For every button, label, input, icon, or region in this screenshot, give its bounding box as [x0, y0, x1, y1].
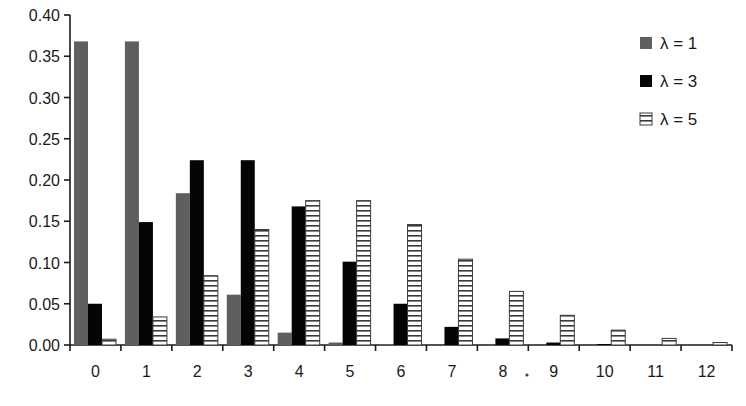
bar	[458, 259, 472, 345]
bar	[176, 193, 190, 345]
x-tick-label: 11	[647, 363, 664, 380]
x-tick-label: 6	[397, 363, 406, 380]
y-tick-label: 0.35	[29, 48, 60, 65]
x-tick-label: 12	[698, 363, 716, 380]
legend: λ = 1λ = 3λ = 5	[640, 34, 697, 129]
bar	[560, 315, 574, 345]
striped-square-swatch-icon	[640, 113, 652, 125]
bar	[329, 343, 343, 345]
legend-label: λ = 1	[660, 34, 697, 53]
bar	[88, 304, 102, 345]
bar	[125, 41, 139, 345]
x-tick-label: 1	[142, 363, 151, 380]
legend-label: λ = 3	[660, 72, 697, 91]
poisson-bar-chart: 0.000.050.100.150.200.250.300.350.40 012…	[0, 0, 746, 406]
x-tick-label: 2	[193, 363, 202, 380]
x-tick-label: 9	[549, 363, 558, 380]
x-tick-label: 4	[295, 363, 304, 380]
bar	[139, 222, 153, 345]
x-tick-label: 3	[244, 363, 253, 380]
x-tick-label: 5	[346, 363, 355, 380]
bar	[495, 338, 509, 345]
x-tick-label: 0	[91, 363, 100, 380]
y-tick-label: 0.25	[29, 131, 60, 148]
bar	[153, 317, 167, 345]
bar	[227, 295, 241, 345]
bar	[597, 344, 611, 345]
legend-label: λ = 5	[660, 110, 697, 129]
y-axis: 0.000.050.100.150.200.250.300.350.40	[29, 7, 70, 354]
bar	[278, 333, 292, 345]
x-tick-label: 10	[596, 363, 614, 380]
y-tick-label: 0.00	[29, 337, 60, 354]
bar	[292, 206, 306, 345]
bar	[255, 230, 269, 346]
bar	[306, 201, 320, 345]
bar	[546, 343, 560, 345]
x-tick-label: 8	[498, 363, 507, 380]
gray-square-swatch-icon	[640, 37, 652, 49]
stray-dot	[525, 373, 528, 376]
bar	[357, 201, 371, 345]
y-tick-label: 0.30	[29, 90, 60, 107]
x-axis: 0123456789101112	[70, 345, 732, 380]
bar	[241, 160, 255, 345]
bars	[74, 41, 727, 345]
y-tick-label: 0.20	[29, 172, 60, 189]
bar	[394, 304, 408, 345]
y-tick-label: 0.40	[29, 7, 60, 24]
bar	[190, 160, 204, 345]
y-tick-label: 0.15	[29, 213, 60, 230]
black-square-swatch-icon	[640, 75, 652, 87]
bar	[408, 225, 422, 345]
x-tick-label: 7	[447, 363, 456, 380]
bar	[662, 338, 676, 345]
bar	[102, 339, 116, 345]
y-tick-label: 0.05	[29, 296, 60, 313]
y-tick-label: 0.10	[29, 255, 60, 272]
bar	[444, 327, 458, 345]
bar	[509, 291, 523, 345]
bar	[74, 41, 88, 345]
bar	[343, 262, 357, 345]
bar	[204, 276, 218, 345]
bar	[380, 344, 394, 345]
bar	[713, 343, 727, 345]
bar	[611, 330, 625, 345]
